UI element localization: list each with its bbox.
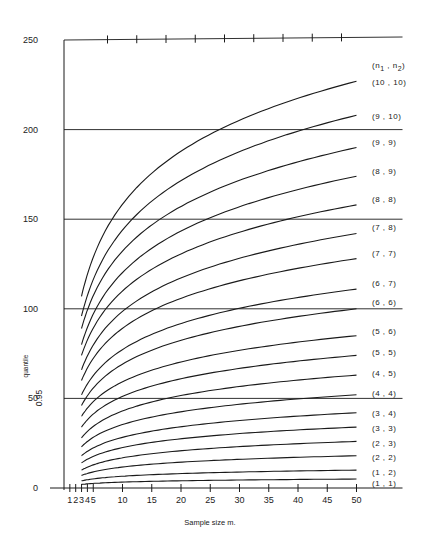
y-axis-title: quantile bbox=[22, 354, 30, 377]
series-label: (3 , 4) bbox=[372, 409, 396, 418]
y-tick-label-100: 100 bbox=[23, 304, 38, 314]
x-tick-label-50: 50 bbox=[351, 495, 361, 505]
x-tick-label-25: 25 bbox=[205, 495, 215, 505]
x-tick-label-45: 45 bbox=[322, 495, 332, 505]
series-curve bbox=[82, 205, 357, 356]
series-label: (10 , 10) bbox=[372, 78, 406, 87]
series-label: (3 , 3) bbox=[372, 424, 396, 433]
series-curve bbox=[82, 395, 357, 447]
series-label: (4 , 5) bbox=[372, 369, 396, 378]
x-tick-label-30: 30 bbox=[234, 495, 244, 505]
y-axis-title-prefix: 0.95 bbox=[34, 389, 44, 406]
x-tick-label-40: 40 bbox=[293, 495, 303, 505]
x-axis-title: Sample size m. bbox=[184, 518, 235, 527]
y-tick-label-200: 200 bbox=[23, 125, 38, 135]
series-labels: (10 , 10)(9 , 10)(9 , 9)(8 , 9)(8 , 8)(7… bbox=[372, 78, 406, 488]
series-curve bbox=[82, 176, 357, 344]
series-curve bbox=[82, 336, 357, 417]
curves bbox=[82, 81, 357, 484]
x-tick-label-35: 35 bbox=[264, 495, 274, 505]
series-label: (7 , 8) bbox=[372, 223, 396, 232]
series-curve bbox=[82, 148, 357, 329]
series-curve bbox=[82, 479, 357, 484]
series-label: (1 , 2) bbox=[372, 468, 396, 477]
series-label: (8 , 9) bbox=[372, 167, 396, 176]
series-label: (5 , 6) bbox=[372, 327, 396, 336]
x-tick-label-3: 3 bbox=[79, 495, 84, 505]
y-tick-label-250: 250 bbox=[23, 35, 38, 45]
series-curve bbox=[82, 355, 357, 427]
x-tick-label-10: 10 bbox=[117, 495, 127, 505]
series-curve bbox=[82, 441, 357, 470]
x-tick-label-15: 15 bbox=[147, 495, 157, 505]
gridline-y-250 bbox=[64, 37, 403, 40]
chart-canvas: 05010015020025012345101520253035404550 (… bbox=[0, 0, 424, 546]
series-label: (9 , 10) bbox=[372, 112, 401, 121]
series-label: (5 , 5) bbox=[372, 348, 396, 357]
series-label: (6 , 6) bbox=[372, 298, 396, 307]
series-label: (9 , 9) bbox=[372, 138, 396, 147]
series-curve bbox=[82, 309, 357, 406]
x-tick-label-20: 20 bbox=[176, 495, 186, 505]
series-label: (4 , 4) bbox=[372, 389, 396, 398]
series-label: (2 , 2) bbox=[372, 453, 396, 462]
x-tick-label-1: 1 bbox=[67, 495, 72, 505]
x-tick-label-2: 2 bbox=[73, 495, 78, 505]
series-label: (7 , 7) bbox=[372, 249, 396, 258]
series-label: (6 , 7) bbox=[372, 279, 396, 288]
axes: 05010015020025012345101520253035404550 bbox=[23, 33, 403, 505]
legend-header: (n1 , n2) bbox=[372, 61, 405, 72]
series-label: (8 , 8) bbox=[372, 195, 396, 204]
x-tick-label-4: 4 bbox=[85, 495, 90, 505]
y-tick-label-150: 150 bbox=[23, 214, 38, 224]
series-label: (2 , 3) bbox=[372, 439, 396, 448]
x-tick-label-5: 5 bbox=[91, 495, 96, 505]
series-label: (1 , 1) bbox=[372, 479, 396, 488]
series-curve bbox=[82, 413, 357, 456]
series-curve bbox=[82, 259, 357, 381]
y-tick-label-0: 0 bbox=[33, 483, 38, 493]
